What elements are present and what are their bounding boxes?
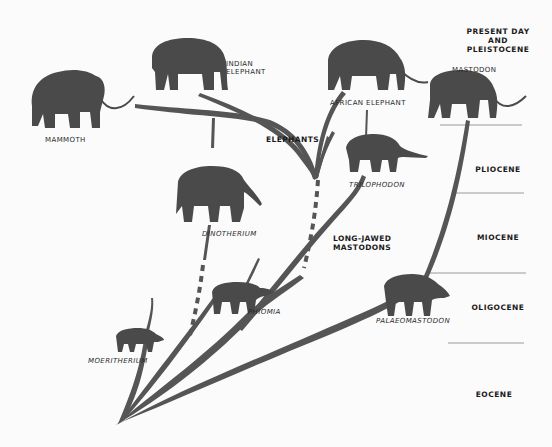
label-phiomia: PHIOMIA bbox=[248, 308, 281, 316]
moeritherium-icon bbox=[116, 328, 164, 352]
label-indian-elephant: INDIAN ELEPHANT bbox=[226, 60, 266, 76]
era-oligocene: OLIGOCENE bbox=[460, 303, 536, 312]
era-present-day-pleistocene: PRESENT DAY AND PLEISTOCENE bbox=[460, 27, 536, 54]
group-label-long-jawed-mastodons: LONG-JAWED MASTODONS bbox=[333, 234, 391, 252]
label-dinotherium: DINOTHERIUM bbox=[202, 230, 257, 238]
indian-elephant-icon bbox=[152, 38, 228, 90]
era-miocene: MIOCENE bbox=[460, 233, 536, 242]
era-pliocene: PLIOCENE bbox=[460, 165, 536, 174]
label-african-elephant: AFRICAN ELEPHANT bbox=[330, 99, 406, 107]
label-mastodon: MASTODON bbox=[452, 66, 496, 74]
palaeomastodon-icon bbox=[384, 274, 450, 316]
african-elephant-icon bbox=[328, 40, 428, 90]
dinotherium-icon bbox=[176, 166, 262, 222]
era-eocene: EOCENE bbox=[456, 390, 532, 399]
mammoth-icon bbox=[32, 70, 134, 128]
label-trilophodon: TRILOPHODON bbox=[349, 181, 405, 189]
group-label-elephants: ELEPHANTS bbox=[266, 135, 319, 144]
evolution-diagram: MAMMOTH INDIAN ELEPHANT AFRICAN ELEPHANT… bbox=[0, 0, 552, 447]
label-moeritherium: MOERITHERIUM bbox=[88, 357, 148, 365]
trilophodon-icon bbox=[346, 134, 428, 172]
mastodon-icon bbox=[428, 70, 526, 118]
label-mammoth: MAMMOTH bbox=[45, 136, 86, 144]
label-palaeomastodon: PALAEOMASTODON bbox=[376, 317, 450, 325]
